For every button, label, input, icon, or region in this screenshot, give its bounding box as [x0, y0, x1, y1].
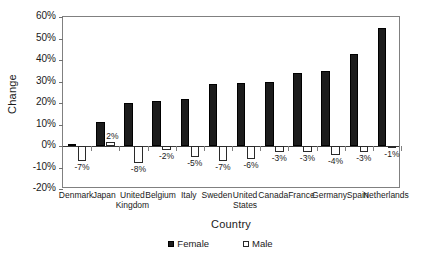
bar-value-label: -3%	[351, 154, 377, 163]
bar-male	[360, 146, 369, 152]
x-axis-tick-mark	[373, 146, 374, 151]
y-axis-tick-label: 20%	[18, 97, 56, 107]
bar-value-label: -3%	[266, 154, 292, 163]
x-axis-tick-mark	[119, 146, 120, 151]
y-axis-tick-mark	[59, 146, 63, 147]
y-axis-tick-label: 10%	[18, 119, 56, 129]
x-axis-tick-mark	[91, 146, 92, 151]
bar-female	[152, 101, 161, 146]
bar-value-label: -1%	[379, 150, 405, 159]
bar-chart: Change 60%50%40%30%20%10%0%-10%-20% -7%2…	[0, 0, 441, 265]
bar-value-label: -8%	[125, 165, 151, 174]
bar-female	[96, 122, 105, 146]
bar-value-label: -3%	[294, 154, 320, 163]
open-square-icon	[243, 241, 249, 247]
bar-male	[106, 142, 115, 146]
y-axis-tick-mark	[59, 39, 63, 40]
legend-label: Female	[177, 238, 209, 249]
filled-square-icon	[168, 241, 174, 247]
y-axis-tick-label: 50%	[18, 33, 56, 43]
bar-male	[191, 146, 200, 157]
y-axis-tick-mark	[59, 168, 63, 169]
y-axis-tick-label: 30%	[18, 76, 56, 86]
plot-area: -7%2%-8%-2%-5%-7%-6%-3%-3%-4%-3%-1%	[62, 16, 400, 188]
legend-item-male[interactable]: Male	[243, 238, 273, 249]
legend-label: Male	[252, 238, 273, 249]
x-axis-tick-mark	[288, 146, 289, 151]
y-axis-tick-label: 60%	[18, 11, 56, 21]
bar-value-label: -2%	[154, 152, 180, 161]
y-axis-tick-labels: 60%50%40%30%20%10%0%-10%-20%	[18, 16, 56, 188]
x-axis-category-label: Netherlands	[363, 190, 409, 200]
x-axis-tick-mark	[176, 146, 177, 151]
y-axis-tick-mark	[59, 125, 63, 126]
zero-baseline	[63, 146, 399, 147]
bar-value-label: -7%	[69, 163, 95, 172]
x-axis-category-labels: DenmarkJapanUnitedKingdomBelgiumItalySwe…	[62, 190, 400, 218]
y-axis-tick-label: 0%	[18, 140, 56, 150]
y-axis-tick-label: 40%	[18, 54, 56, 64]
bar-male	[388, 146, 397, 148]
y-axis-tick-mark	[59, 17, 63, 18]
y-axis-tick-mark	[59, 103, 63, 104]
bar-female	[237, 83, 246, 146]
bar-female	[350, 54, 359, 146]
bar-female	[265, 82, 274, 147]
x-axis-tick-mark	[232, 146, 233, 151]
y-axis-tick-mark	[59, 60, 63, 61]
bar-male	[275, 146, 284, 152]
x-axis-tick-mark	[317, 146, 318, 151]
bar-value-label: -4%	[323, 157, 349, 166]
bar-value-label: -7%	[210, 163, 236, 172]
bar-male	[162, 146, 171, 150]
bar-female	[181, 99, 190, 146]
bar-female	[209, 84, 218, 146]
legend-item-female[interactable]: Female	[168, 238, 209, 249]
y-axis-tick-label: -20%	[18, 183, 56, 193]
x-axis-tick-mark	[204, 146, 205, 151]
x-axis-title: Country	[62, 218, 400, 230]
y-axis-title: Change	[6, 54, 18, 134]
bar-male	[134, 146, 143, 163]
bar-female	[378, 28, 387, 146]
x-axis-tick-mark	[260, 146, 261, 151]
bar-female	[68, 144, 77, 146]
bar-male	[78, 146, 87, 161]
bar-value-label: -5%	[182, 159, 208, 168]
bar-male	[331, 146, 340, 155]
x-axis-tick-mark	[345, 146, 346, 151]
bar-male	[303, 146, 312, 152]
y-axis-tick-mark	[59, 82, 63, 83]
bar-female	[124, 103, 133, 146]
bar-male	[247, 146, 256, 159]
bar-female	[321, 71, 330, 146]
y-axis-tick-label: -10%	[18, 162, 56, 172]
chart-legend: FemaleMale	[0, 238, 441, 249]
bar-female	[293, 73, 302, 146]
x-axis-tick-mark	[148, 146, 149, 151]
bar-male	[219, 146, 228, 161]
bar-value-label: -6%	[238, 161, 264, 170]
